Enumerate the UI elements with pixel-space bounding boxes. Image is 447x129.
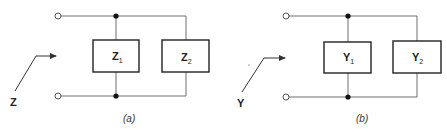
- junction-node-top-b: [345, 13, 350, 18]
- input-arrow-b: [242, 58, 285, 92]
- input-terminal-top-a: [55, 13, 61, 19]
- parallel-circuit-figure: Z1 Z2 Z (a) Y1 Y2 Y (b): [0, 0, 447, 129]
- circuit-diagrams-svg: Z1 Z2 Z (a) Y1 Y2 Y (b): [0, 0, 447, 129]
- diagram-b: Y1 Y2 Y (b): [237, 13, 441, 124]
- top-wire-b: [289, 16, 417, 41]
- input-terminal-bottom-a: [55, 93, 61, 99]
- diagram-a: Z1 Z2 Z (a): [10, 13, 209, 124]
- junction-node-top-a: [113, 13, 118, 18]
- input-label-y: Y: [237, 97, 245, 109]
- input-label-z: Z: [10, 96, 17, 108]
- junction-node-bottom-b: [345, 94, 350, 99]
- input-terminal-top-b: [283, 13, 289, 19]
- junction-node-bottom-a: [113, 93, 118, 98]
- stray-dot: [248, 64, 250, 66]
- input-arrow-a: [15, 56, 56, 91]
- top-wire-a: [61, 16, 186, 40]
- bottom-wire-a: [61, 72, 186, 96]
- caption-b: (b): [356, 113, 368, 124]
- input-terminal-bottom-b: [283, 94, 289, 100]
- bottom-wire-b: [289, 73, 417, 97]
- caption-a: (a): [123, 113, 135, 124]
